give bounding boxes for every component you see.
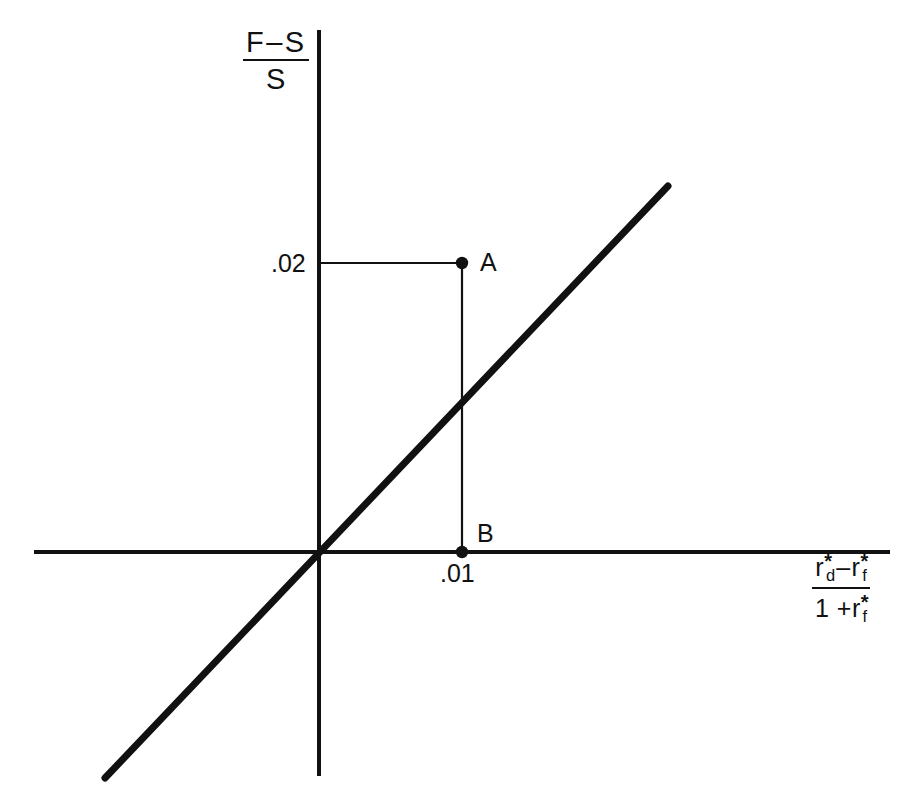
x-axis-num-right-sub: f — [862, 566, 867, 584]
x-axis-title-numerator: r*d–r*f — [812, 551, 870, 589]
x-axis-title-denominator: 1 +r*f — [812, 589, 870, 625]
figure-canvas: F–S S r*d–r*f 1 +r*f .02 .01 A B — [0, 0, 917, 809]
y-tick-label-002: .02 — [271, 251, 306, 276]
point-b-label: B — [477, 521, 494, 546]
y-axis-numerator-left: F — [246, 26, 265, 58]
y-axis-title: F–S S — [243, 27, 309, 95]
x-tick-label-001: .01 — [440, 561, 475, 586]
y-axis-numerator-right: S — [285, 26, 306, 58]
x-axis-den-sub: f — [863, 607, 868, 625]
point-b-marker — [456, 546, 468, 558]
point-a-label: A — [480, 250, 497, 275]
y-axis-title-numerator: F–S — [243, 27, 309, 61]
x-axis-title-fraction: r*d–r*f 1 +r*f — [812, 551, 870, 626]
x-axis-den-base: r — [852, 595, 861, 623]
x-axis-num-left-base: r — [815, 553, 824, 581]
point-a-marker — [456, 257, 468, 269]
plot-area — [0, 0, 917, 809]
parity-line — [105, 186, 668, 778]
x-axis-den-lead: 1 + — [815, 595, 852, 623]
y-axis-numerator-operator: – — [265, 26, 285, 58]
x-axis-num-operator: – — [835, 553, 851, 581]
x-axis-num-left-sub: d — [826, 566, 835, 584]
y-axis-title-denominator: S — [243, 61, 309, 94]
y-axis-title-fraction: F–S S — [243, 27, 309, 95]
x-axis-title: r*d–r*f 1 +r*f — [812, 551, 870, 626]
